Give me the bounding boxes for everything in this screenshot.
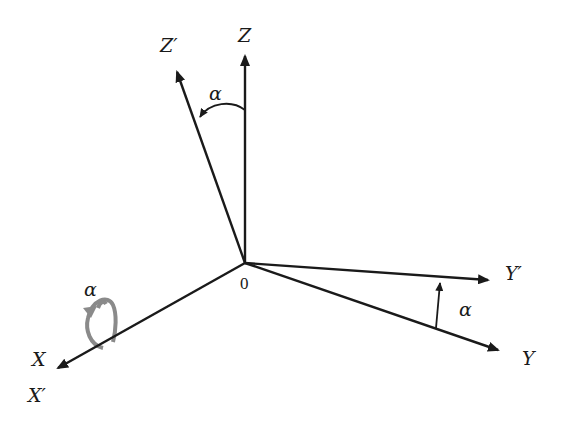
alpha-rotation-label: α — [84, 278, 97, 300]
rotation-arrow-icon — [87, 299, 115, 348]
alpha-arc-top — [200, 104, 245, 117]
y-prime-label: Y′ — [505, 262, 523, 284]
alpha-top-label: α — [209, 82, 222, 104]
y-label: Y — [522, 347, 537, 369]
rotation-arrowhead-icon — [83, 306, 97, 318]
alpha-right-label: α — [459, 298, 472, 320]
x-label: X — [30, 348, 47, 370]
alpha-arc-right — [436, 283, 440, 328]
z-prime-label: Z′ — [159, 34, 178, 56]
y-prime-axis — [245, 263, 488, 280]
coordinate-rotation-diagram: Z Z′ α 0 Y′ α Y α X X′ — [0, 0, 567, 431]
origin-label: 0 — [240, 274, 249, 293]
x-prime-label: X′ — [26, 384, 47, 406]
z-label: Z — [237, 24, 252, 46]
